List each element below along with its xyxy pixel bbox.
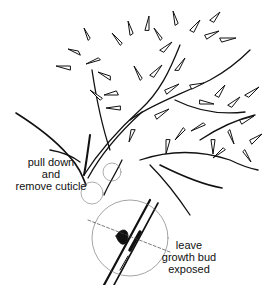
growth-bud	[116, 230, 128, 244]
pull-cuticle-line-2: and	[12, 168, 90, 180]
growth-bud-label: leave growth bud exposed	[149, 239, 229, 275]
growth-bud-line-3: exposed	[149, 263, 229, 275]
leaves	[56, 11, 262, 162]
growth-bud-line-1: leave	[149, 239, 229, 251]
pull-cuticle-label: pull down and remove cuticle	[12, 156, 90, 192]
pull-cuticle-line-1: pull down	[12, 156, 90, 168]
plant-branch-drawing	[0, 0, 272, 285]
illustration-canvas: pull down and remove cuticle leave growt…	[0, 0, 272, 285]
growth-bud-line-2: growth bud	[149, 251, 229, 263]
pull-cuticle-line-3: remove cuticle	[12, 180, 90, 192]
